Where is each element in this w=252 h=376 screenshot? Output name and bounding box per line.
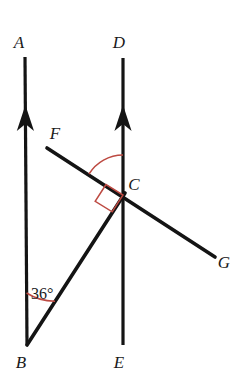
angle-measure-label: 36° [31,285,53,302]
point-label-f: F [49,124,61,143]
point-label-b: B [16,353,27,372]
point-label-a: A [13,33,25,52]
segment-bc [27,193,125,345]
geometry-figure: A B C D E F G 36° [0,0,252,376]
line-fg [47,148,215,257]
point-label-d: D [112,33,126,52]
geometry-canvas: A B C D E F G 36° [0,0,252,376]
angle-fcd-arc [89,155,123,174]
ray-ba-line [25,57,27,345]
point-label-g: G [218,253,230,272]
point-label-e: E [113,353,125,372]
point-label-c: C [128,175,140,194]
